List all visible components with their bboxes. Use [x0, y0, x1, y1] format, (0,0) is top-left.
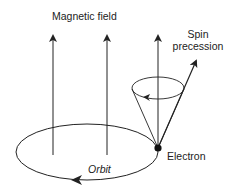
spin-precession-label: Spin precession	[172, 28, 224, 52]
spin-precession-line2: precession	[172, 40, 224, 52]
orbit-ellipse	[16, 124, 158, 180]
magnetic-field-lines	[53, 36, 158, 155]
electron-label: Electron	[167, 150, 206, 162]
precession-direction-arrow-icon	[143, 94, 150, 101]
electron-dot	[154, 144, 161, 151]
spin-vector-arrow	[158, 61, 196, 148]
spin-precession-line1: Spin	[172, 28, 224, 40]
orbit	[16, 124, 158, 185]
magnetic-field-label: Magnetic field	[52, 10, 117, 22]
orbit-label: Orbit	[88, 163, 111, 175]
